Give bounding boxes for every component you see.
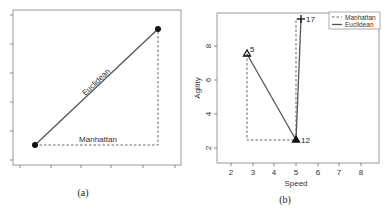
euclidean-line-12-17 [296,19,301,140]
y-tick-label: 2 [204,145,213,150]
manhattan-label-a: Manhattan [79,135,117,144]
y-tick-label: 6 [204,77,213,82]
point-a-1 [32,142,38,148]
panel-b: 2 3 4 5 6 7 8 Speed 2 4 6 8 Agility [193,12,380,206]
point-label-5: 5 [250,45,255,54]
y-tick-label: 8 [204,43,213,48]
legend-manhattan-label: Manhattan [345,14,376,21]
x-tick-label: 2 [229,168,234,177]
panel-a: Euclidean Manhattan (a) [10,10,181,199]
x-tick-label: 7 [337,168,342,177]
x-tick-label: 4 [272,168,277,177]
euclidean-label-a: Euclidean [80,67,112,98]
point-label-12: 12 [301,136,310,145]
y-axis-title: Agility [193,77,202,98]
point-a-2 [155,26,161,32]
x-tick-label: 8 [359,168,364,177]
y-tick-label: 4 [204,111,213,116]
x-tick-label: 3 [251,168,256,177]
legend: Manhattan Euclidean [329,12,380,29]
legend-euclidean-label: Euclidean [345,21,374,28]
point-label-17: 17 [306,15,315,24]
euclidean-line-5-12 [247,54,296,140]
x-axis-title: Speed [284,179,307,188]
plus-marker-17 [297,15,305,23]
plot-b-y-axis: 2 4 6 8 Agility [193,43,217,150]
x-tick-label: 5 [294,168,299,177]
plot-b-x-axis: 2 3 4 5 6 7 8 Speed [229,163,364,188]
caption-a: (a) [77,187,88,199]
caption-b: (b) [279,194,291,206]
figure: Euclidean Manhattan (a) 2 3 4 5 6 7 8 Sp… [0,0,388,211]
x-tick-label: 6 [316,168,321,177]
